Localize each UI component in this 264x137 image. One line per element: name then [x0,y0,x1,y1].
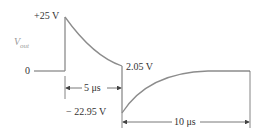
recovery-time-label: 10 μs [174,117,196,127]
pulse-width-label: 5 μs [84,83,101,93]
end-of-pulse-voltage-label: 2.05 V [126,62,153,72]
zero-label: 0 [25,66,30,76]
decay-curve [65,17,122,66]
negative-peak-voltage-label: − 22.95 V [66,107,106,117]
vout-sub: out [20,42,29,50]
recovery-curve [122,71,250,113]
peak-voltage-label: +25 V [34,11,59,21]
vout-axis-label: Vout [14,37,29,50]
